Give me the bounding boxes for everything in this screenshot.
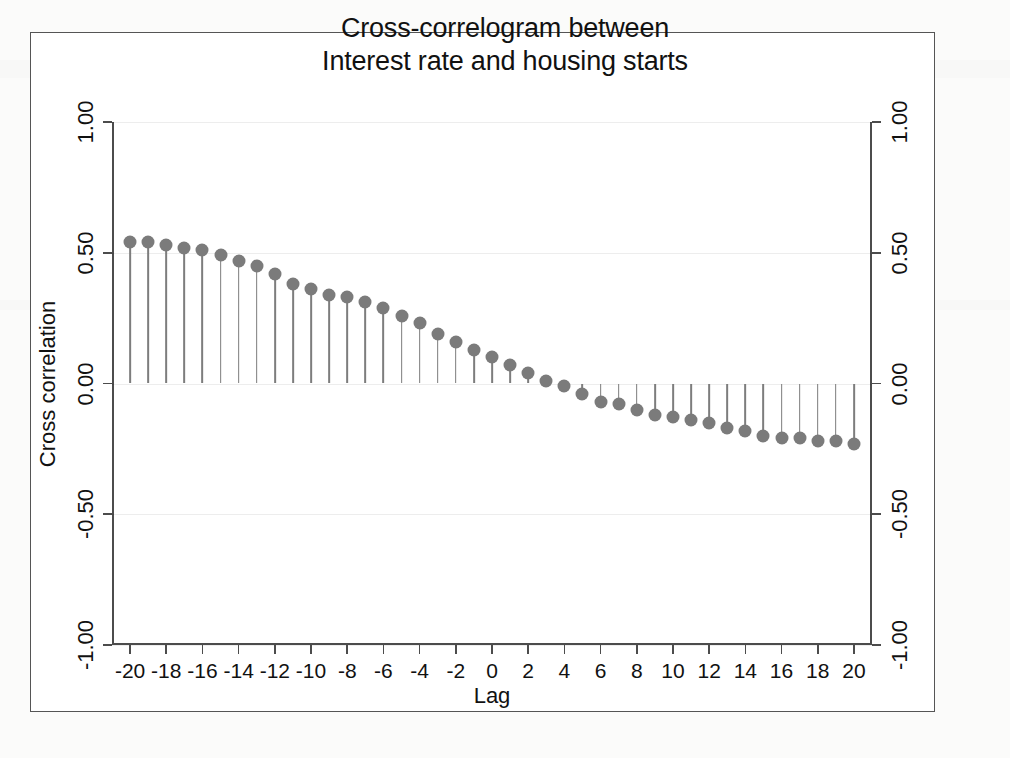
x-tick-label-1: -18 (151, 659, 181, 683)
stem-lag--14 (238, 261, 240, 384)
x-tick-label-4: -12 (260, 659, 290, 683)
x-tick-label-8: -4 (410, 659, 429, 683)
data-point-lag-18 (811, 435, 824, 448)
x-tick-12 (564, 645, 566, 654)
y-tick-right-0 (872, 121, 881, 123)
y-tick-left-0 (103, 121, 112, 123)
x-tick-label-5: -10 (296, 659, 326, 683)
data-point-lag--6 (377, 301, 390, 314)
x-tick-label-12: 4 (559, 659, 571, 683)
y-tick-right-1 (872, 252, 881, 254)
y-tick-label-left-0: 1.00 (73, 101, 99, 144)
y-tick-label-right-0: 1.00 (887, 101, 913, 144)
data-point-lag--3 (431, 327, 444, 340)
data-point-lag--20 (124, 236, 137, 249)
data-point-lag--18 (160, 238, 173, 251)
data-point-lag--10 (305, 283, 318, 296)
x-tick-label-16: 12 (697, 659, 720, 683)
data-point-lag-6 (594, 395, 607, 408)
stem-lag--6 (383, 308, 385, 384)
stem-lag-20 (853, 384, 855, 444)
stem-lag-17 (799, 384, 801, 439)
y-tick-label-right-3: -0.50 (887, 489, 913, 539)
y-axis-title: Cross correlation (35, 301, 61, 467)
x-tick-2 (202, 645, 204, 654)
x-axis-title: Lag (474, 683, 511, 709)
x-tick-label-3: -14 (223, 659, 253, 683)
x-tick-17 (745, 645, 747, 654)
x-tick-label-17: 14 (734, 659, 757, 683)
y-tick-label-left-3: -0.50 (73, 489, 99, 539)
x-tick-18 (781, 645, 783, 654)
y-tick-label-left-1: 0.50 (73, 231, 99, 274)
data-point-lag-17 (793, 432, 806, 445)
stem-lag-19 (835, 384, 837, 442)
chart-title-line-2: Interest rate and housing starts (0, 45, 1010, 78)
stem-lag--5 (401, 316, 403, 384)
y-tick-label-right-2: 0.00 (887, 362, 913, 405)
plot-inner (112, 122, 872, 645)
x-tick-16 (708, 645, 710, 654)
data-point-lag--12 (268, 267, 281, 280)
stem-lag--16 (202, 250, 204, 383)
data-point-lag--14 (232, 254, 245, 267)
stem-lag--11 (292, 284, 294, 383)
data-point-lag--19 (142, 236, 155, 249)
data-point-lag-4 (558, 380, 571, 393)
stem-lag-16 (781, 384, 783, 439)
stem-lag--12 (274, 274, 276, 384)
stem-lag--4 (419, 323, 421, 383)
y-tick-left-4 (103, 644, 112, 646)
x-tick-10 (491, 645, 493, 654)
stem-lag--13 (256, 266, 258, 384)
x-tick-1 (165, 645, 167, 654)
reference-line-0 (112, 122, 872, 123)
y-tick-left-1 (103, 252, 112, 254)
data-point-lag--1 (467, 343, 480, 356)
stem-lag--3 (437, 334, 439, 384)
data-point-lag-9 (648, 408, 661, 421)
stem-lag--8 (346, 297, 348, 383)
y-tick-label-right-1: 0.50 (887, 231, 913, 274)
x-tick-label-15: 10 (661, 659, 684, 683)
x-tick-7 (383, 645, 385, 654)
x-tick-label-20: 20 (842, 659, 865, 683)
x-tick-label-10: 0 (486, 659, 498, 683)
x-tick-19 (817, 645, 819, 654)
stem-lag--17 (184, 248, 186, 384)
x-tick-9 (455, 645, 457, 654)
x-tick-15 (672, 645, 674, 654)
x-tick-label-11: 2 (522, 659, 534, 683)
x-tick-label-0: -20 (115, 659, 145, 683)
figure-page: Cross-correlogram between Interest rate … (0, 0, 1010, 758)
data-point-lag--17 (178, 241, 191, 254)
x-tick-13 (600, 645, 602, 654)
y-tick-left-3 (103, 513, 112, 515)
stem-lag--20 (129, 242, 131, 383)
data-point-lag--9 (323, 288, 336, 301)
data-point-lag--11 (286, 278, 299, 291)
x-tick-0 (129, 645, 131, 654)
data-point-lag-19 (829, 435, 842, 448)
data-point-lag-10 (666, 411, 679, 424)
x-tick-label-19: 18 (806, 659, 829, 683)
data-point-lag-20 (847, 437, 860, 450)
data-point-lag-7 (612, 398, 625, 411)
reference-line-3 (112, 514, 872, 515)
data-point-lag--15 (214, 249, 227, 262)
y-tick-right-2 (872, 383, 881, 385)
stem-lag-15 (763, 384, 765, 436)
x-tick-14 (636, 645, 638, 654)
x-tick-label-13: 6 (595, 659, 607, 683)
x-tick-8 (419, 645, 421, 654)
data-point-lag-0 (486, 351, 499, 364)
stem-lag-18 (817, 384, 819, 442)
x-tick-6 (346, 645, 348, 654)
data-point-lag-3 (540, 374, 553, 387)
data-point-lag-2 (522, 367, 535, 380)
x-tick-11 (527, 645, 529, 654)
data-point-lag-14 (739, 424, 752, 437)
stem-lag--10 (310, 289, 312, 383)
data-point-lag--13 (250, 259, 263, 272)
x-tick-5 (310, 645, 312, 654)
